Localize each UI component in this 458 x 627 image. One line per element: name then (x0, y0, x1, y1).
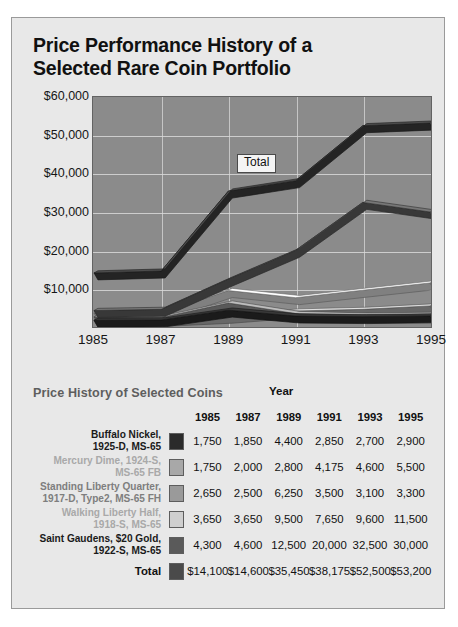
total-cell: $53,200 (390, 558, 431, 583)
table-cell: 2,650 (187, 480, 228, 506)
table-header-spacer-label (33, 411, 165, 428)
table-cell: 2,500 (228, 480, 269, 506)
table-cell: 1,850 (228, 428, 269, 454)
coin-name-label: Walking Liberty Half, 1918-S, MS-65 (33, 506, 165, 532)
table-row: Standing Liberty Quarter, 1917-D, Type2,… (33, 480, 431, 506)
year-header: Year (269, 385, 293, 397)
series-ribbon-top-5 (94, 121, 431, 273)
table-cell: 7,650 (309, 506, 350, 532)
x-tick-1985: 1985 (78, 332, 108, 347)
table-cell: 1,750 (187, 428, 228, 454)
table-total-row: Total$14,100$14,600$35,450$38,175$52,500… (33, 558, 431, 583)
y-tick-40000: $40,000 (44, 166, 89, 180)
column-header-1995: 1995 (390, 411, 431, 428)
table-cell: 3,500 (309, 480, 350, 506)
table-head: 198519871989199119931995 (33, 411, 431, 428)
total-label: Total (33, 558, 165, 583)
page-title: Price Performance History of a Selected … (33, 34, 363, 80)
table-cell: 11,500 (390, 506, 431, 532)
table-row: Buffalo Nickel, 1925-D, MS-651,7501,8504… (33, 428, 431, 454)
total-swatch-icon (169, 563, 184, 580)
series-lines (93, 97, 431, 327)
table-cell: 3,650 (187, 506, 228, 532)
y-tick-50000: $50,000 (44, 128, 89, 142)
table-cell: 2,800 (268, 454, 309, 480)
price-history-table: 198519871989199119931995 Buffalo Nickel,… (33, 411, 431, 583)
table-cell: 3,100 (350, 480, 391, 506)
legend-swatch-cell (165, 532, 187, 558)
y-tick-30000: $30,000 (44, 205, 89, 219)
table-body: Buffalo Nickel, 1925-D, MS-651,7501,8504… (33, 428, 431, 583)
coin-name-label: Saint Gaudens, $20 Gold, 1922-S, MS-65 (33, 532, 165, 558)
legend-swatch-cell (165, 480, 187, 506)
total-annotation-label: Total (237, 154, 276, 173)
table-cell: 20,000 (309, 532, 350, 558)
total-cell: $52,500 (350, 558, 391, 583)
table-row: Walking Liberty Half, 1918-S, MS-653,650… (33, 506, 431, 532)
legend-swatch-cell (165, 506, 187, 532)
legend-swatch-icon (169, 485, 184, 502)
x-tick-1987: 1987 (146, 332, 176, 347)
table-cell: 4,600 (350, 454, 391, 480)
total-swatch-cell (165, 558, 187, 583)
table-cell: 5,500 (390, 454, 431, 480)
table-cell: 2,000 (228, 454, 269, 480)
table-row: Saint Gaudens, $20 Gold, 1922-S, MS-654,… (33, 532, 431, 558)
table-cell: 9,600 (350, 506, 391, 532)
total-cell: $14,600 (228, 558, 269, 583)
plot-area: Total (92, 96, 432, 328)
column-header-1993: 1993 (350, 411, 391, 428)
table-cell: 6,250 (268, 480, 309, 506)
price-history-table-block: Price History of Selected Coins Year 198… (33, 386, 431, 583)
table-cell: 2,900 (390, 428, 431, 454)
coin-name-label: Buffalo Nickel, 1925-D, MS-65 (33, 428, 165, 454)
coin-name-label: Mercury Dime, 1924-S, MS-65 FB (33, 454, 165, 480)
total-cell: $14,100 (187, 558, 228, 583)
table-cell: 2,850 (309, 428, 350, 454)
series-ribbon-face-5 (94, 123, 431, 280)
report-card: Price Performance History of a Selected … (11, 17, 445, 609)
legend-swatch-icon (169, 537, 184, 554)
legend-swatch-icon (169, 459, 184, 476)
y-tick-20000: $20,000 (44, 244, 89, 258)
table-cell: 32,500 (350, 532, 391, 558)
table-header-row: 198519871989199119931995 (33, 411, 431, 428)
column-header-1987: 1987 (228, 411, 269, 428)
table-row: Mercury Dime, 1924-S, MS-65 FB1,7502,000… (33, 454, 431, 480)
x-tick-1993: 1993 (348, 332, 378, 347)
total-cell: $35,450 (268, 558, 309, 583)
y-axis-labels: $10,000$20,000$30,000$40,000$50,000$60,0… (22, 96, 92, 328)
price-performance-chart: $10,000$20,000$30,000$40,000$50,000$60,0… (22, 96, 437, 376)
x-axis-labels: 198519871989199119931995 (92, 330, 432, 354)
x-tick-1991: 1991 (281, 332, 311, 347)
plot-area-wrapper: Total (92, 96, 432, 328)
table-cell: 9,500 (268, 506, 309, 532)
coin-name-label: Standing Liberty Quarter, 1917-D, Type2,… (33, 480, 165, 506)
table-cell: 4,600 (228, 532, 269, 558)
table-cell: 12,500 (268, 532, 309, 558)
legend-swatch-icon (169, 511, 184, 528)
table-cell: 2,700 (350, 428, 391, 454)
table-cell: 3,650 (228, 506, 269, 532)
table-cell: 4,175 (309, 454, 350, 480)
column-header-1991: 1991 (309, 411, 350, 428)
legend-swatch-icon (169, 433, 184, 450)
table-cell: 3,300 (390, 480, 431, 506)
x-tick-1989: 1989 (213, 332, 243, 347)
table-cell: 30,000 (390, 532, 431, 558)
y-tick-10000: $10,000 (44, 282, 89, 296)
legend-swatch-cell (165, 428, 187, 454)
total-cell: $38,175 (309, 558, 350, 583)
x-tick-1995: 1995 (416, 332, 446, 347)
column-header-1985: 1985 (187, 411, 228, 428)
legend-swatch-cell (165, 454, 187, 480)
column-header-1989: 1989 (268, 411, 309, 428)
table-caption: Price History of Selected Coins (33, 386, 431, 400)
y-tick-60000: $60,000 (44, 89, 89, 103)
table-header-spacer-swatch (165, 411, 187, 428)
table-cell: 1,750 (187, 454, 228, 480)
table-cell: 4,300 (187, 532, 228, 558)
table-cell: 4,400 (268, 428, 309, 454)
